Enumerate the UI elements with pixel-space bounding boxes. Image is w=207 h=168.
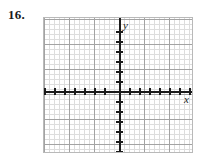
y-axis-tick <box>116 111 123 113</box>
worksheet-graph-problem: 16. y x <box>0 0 207 168</box>
y-axis-tick <box>116 71 123 73</box>
y-axis-label: y <box>123 20 128 31</box>
x-axis-tick <box>94 88 96 95</box>
x-axis-label: x <box>184 94 189 105</box>
y-axis-tick <box>116 41 123 43</box>
x-axis-tick <box>179 88 181 95</box>
x-axis-tick <box>54 88 56 95</box>
y-axis-tick <box>116 31 123 33</box>
x-axis-tick <box>64 88 66 95</box>
x-axis-tick <box>44 88 46 95</box>
y-axis-tick <box>116 101 123 103</box>
y-axis-tick <box>116 81 123 83</box>
y-axis-tick <box>116 131 123 133</box>
x-axis-tick <box>84 88 86 95</box>
y-axis-tick <box>116 121 123 123</box>
y-axis-tick <box>116 61 123 63</box>
y-axis-tick <box>116 151 123 153</box>
x-axis-tick <box>149 88 151 95</box>
x-axis-tick <box>159 88 161 95</box>
x-axis-tick <box>104 88 106 95</box>
problem-number-label: 16. <box>8 8 25 21</box>
y-axis-tick <box>116 51 123 53</box>
x-axis-tick <box>189 88 191 95</box>
y-axis-tick <box>116 141 123 143</box>
x-axis-tick <box>74 88 76 95</box>
x-axis-tick <box>169 88 171 95</box>
x-axis-tick <box>129 88 131 95</box>
coordinate-grid: y x <box>43 17 193 153</box>
x-axis-tick <box>139 88 141 95</box>
